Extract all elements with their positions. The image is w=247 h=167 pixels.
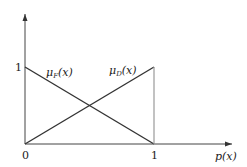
mu-d-label: μD(x) xyxy=(109,64,137,78)
y-tick-1: 1 xyxy=(15,61,22,74)
x-axis-label: p(x) xyxy=(215,150,237,163)
membership-function-diagram: 1 0 1 p(x) μF(x) μD(x) xyxy=(0,0,247,167)
mu-f-label: μF(x) xyxy=(46,66,73,80)
x-tick-0: 0 xyxy=(22,149,29,162)
x-tick-1: 1 xyxy=(151,149,158,162)
